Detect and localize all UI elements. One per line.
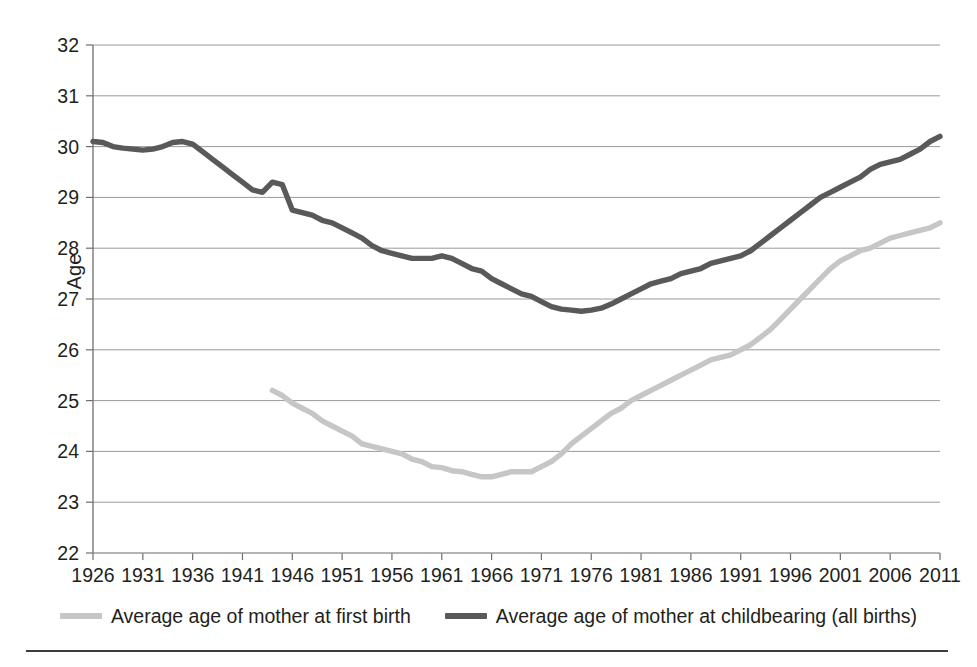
x-tick-label-1931: 1931 (121, 564, 164, 586)
x-tick-label-2001: 2001 (819, 564, 862, 586)
y-tick-label-31: 31 (57, 85, 79, 107)
legend-swatch-first-birth (60, 613, 102, 619)
chart-svg: 2223242526272829303132 19261931193619411… (0, 0, 977, 600)
x-tick-label-2006: 2006 (868, 564, 911, 586)
legend-label-all-births: Average age of mother at childbearing (a… (496, 605, 917, 628)
bottom-divider (26, 650, 948, 652)
x-tick-label-1986: 1986 (669, 564, 712, 586)
x-tick-marks-group (93, 553, 940, 560)
y-tick-labels-group: 2223242526272829303132 (57, 34, 79, 564)
x-tick-label-1976: 1976 (570, 564, 613, 586)
y-tick-marks-group (86, 45, 93, 553)
x-tick-label-1936: 1936 (171, 564, 214, 586)
x-tick-label-1981: 1981 (619, 564, 662, 586)
x-tick-label-1971: 1971 (520, 564, 563, 586)
y-tick-label-27: 27 (57, 288, 79, 310)
chart-figure: Age 2223242526272829303132 1926193119361… (0, 0, 977, 667)
x-tick-label-1996: 1996 (769, 564, 812, 586)
legend-swatch-all-births (445, 613, 487, 619)
data-series-group (93, 136, 940, 476)
x-tick-labels-group: 1926193119361941194619511956196119661971… (71, 564, 961, 586)
y-tick-label-24: 24 (57, 440, 79, 462)
y-tick-label-26: 26 (57, 339, 79, 361)
x-tick-label-2011: 2011 (919, 564, 961, 586)
x-tick-label-1961: 1961 (420, 564, 463, 586)
gridlines-group (93, 45, 940, 553)
y-tick-label-28: 28 (57, 237, 79, 259)
x-tick-label-1946: 1946 (271, 564, 314, 586)
y-tick-label-23: 23 (57, 491, 79, 513)
x-tick-label-1991: 1991 (719, 564, 762, 586)
legend-item-all-births[interactable]: Average age of mother at childbearing (a… (445, 605, 917, 628)
chart-legend: Average age of mother at first birth Ave… (0, 598, 977, 634)
y-tick-label-22: 22 (57, 542, 79, 564)
x-tick-label-1951: 1951 (320, 564, 363, 586)
legend-item-first-birth[interactable]: Average age of mother at first birth (60, 605, 411, 628)
y-tick-label-32: 32 (57, 34, 79, 56)
y-tick-label-29: 29 (57, 186, 79, 208)
x-tick-label-1956: 1956 (370, 564, 413, 586)
x-tick-label-1966: 1966 (470, 564, 513, 586)
plot-area: 2223242526272829303132 19261931193619411… (0, 0, 977, 600)
y-tick-label-30: 30 (57, 136, 79, 158)
legend-label-first-birth: Average age of mother at first birth (111, 605, 411, 628)
x-tick-label-1926: 1926 (71, 564, 114, 586)
x-tick-label-1941: 1941 (221, 564, 264, 586)
y-tick-label-25: 25 (57, 390, 79, 412)
